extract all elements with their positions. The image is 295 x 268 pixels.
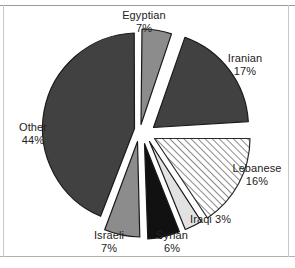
slice-label-egyptian-percent: 7% [104,22,184,35]
slice-label-israeli: Israeli 7% [76,229,142,254]
slice-label-lebanese-name: Lebanese [222,162,292,175]
slice-label-israeli-percent: 7% [76,242,142,255]
slice-label-syrian-name: Syrian [139,229,205,242]
slice-label-iraqi: Iraqi 3% [190,213,260,226]
slice-label-syrian-percent: 6% [139,242,205,255]
slice-label-egyptian: Egyptian 7% [104,9,184,34]
slice-label-other-name: Other [3,121,63,134]
slice-label-iranian: Iranian 17% [208,52,282,77]
slice-label-israeli-name: Israeli [76,229,142,242]
slice-label-lebanese-percent: 16% [222,175,292,188]
slice-label-other-percent: 44% [3,134,63,147]
pie-chart-figure: Egyptian 7% Iranian 17% Lebanese 16% Ira… [0,0,295,268]
slice-label-iranian-percent: 17% [208,65,282,78]
slice-label-other: Other 44% [3,121,63,146]
slice-label-lebanese: Lebanese 16% [222,162,292,187]
slice-label-iraqi-name: Iraqi [190,213,215,225]
slice-label-egyptian-name: Egyptian [104,9,184,22]
slice-label-iranian-name: Iranian [208,52,282,65]
pie-slice-iranian[interactable] [154,37,249,127]
slice-label-iraqi-percent: 3% [215,213,231,225]
slice-label-syrian: Syrian 6% [139,229,205,254]
